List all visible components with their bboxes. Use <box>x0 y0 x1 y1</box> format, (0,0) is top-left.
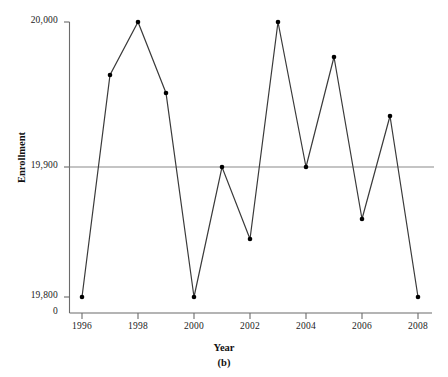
data-point <box>388 114 393 119</box>
x-tick-label-2000: 2000 <box>171 321 217 331</box>
x-tick-label-1996: 1996 <box>59 321 105 331</box>
data-point <box>360 217 365 222</box>
data-point <box>164 91 169 96</box>
data-point <box>304 165 309 170</box>
data-point <box>248 237 253 242</box>
y-axis-title: Enrollment <box>16 115 27 201</box>
data-point <box>108 73 113 78</box>
y-axis-zero-label: 0 <box>6 306 58 316</box>
y-tick-label-19900: 19,900 <box>6 160 58 170</box>
data-point <box>276 20 281 25</box>
x-tick-label-2002: 2002 <box>227 321 273 331</box>
data-point <box>192 295 197 300</box>
x-tick-label-1998: 1998 <box>115 321 161 331</box>
enrollment-line-chart-figure: 20,000 19,900 19,800 0 1996 1998 2000 20… <box>0 0 448 377</box>
data-point <box>416 295 421 300</box>
panel-label: (b) <box>176 357 272 368</box>
x-tick-label-2008: 2008 <box>395 321 441 331</box>
x-axis-title: Year <box>176 342 272 353</box>
y-tick-label-20000: 20,000 <box>6 15 58 25</box>
data-point <box>332 55 337 60</box>
data-point <box>220 165 225 170</box>
data-point <box>80 295 85 300</box>
y-tick-label-19800: 19,800 <box>6 290 58 300</box>
x-tick-label-2006: 2006 <box>339 321 385 331</box>
data-point <box>136 20 141 25</box>
data-line <box>82 22 418 297</box>
x-tick-label-2004: 2004 <box>283 321 329 331</box>
